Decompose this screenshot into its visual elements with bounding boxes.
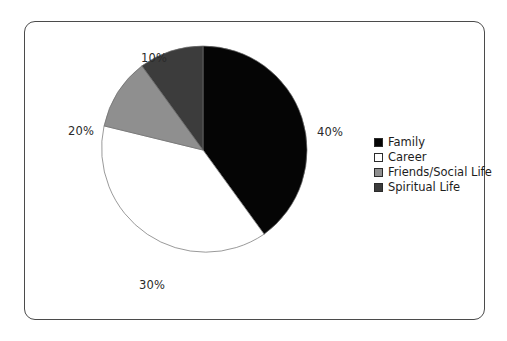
- chart-frame: 10% 20% 40% 30% Family Career Friends/So…: [24, 21, 485, 320]
- legend-swatch-friends-social-life-icon: [374, 168, 383, 177]
- chart-legend: Family Career Friends/Social Life Spirit…: [374, 135, 502, 195]
- legend-label-spiritual-life: Spiritual Life: [388, 181, 460, 194]
- pie-label-spiritual-life: 10%: [141, 51, 167, 65]
- legend-swatch-career-icon: [374, 153, 383, 162]
- legend-item-family[interactable]: Family: [374, 135, 502, 150]
- legend-item-friends-social-life[interactable]: Friends/Social Life: [374, 165, 502, 180]
- legend-label-career: Career: [388, 151, 426, 164]
- pie-label-family: 40%: [317, 125, 343, 139]
- pie-chart-plot-area: 10% 20% 40% 30%: [25, 22, 385, 321]
- pie-chart[interactable]: [97, 44, 309, 256]
- pie-label-career: 30%: [139, 278, 165, 292]
- legend-item-career[interactable]: Career: [374, 150, 502, 165]
- legend-item-spiritual-life[interactable]: Spiritual Life: [374, 180, 502, 195]
- pie-label-friends-social-life: 20%: [68, 124, 94, 138]
- legend-label-family: Family: [388, 136, 425, 149]
- legend-swatch-family-icon: [374, 138, 383, 147]
- legend-swatch-spiritual-life-icon: [374, 183, 383, 192]
- legend-label-friends-social-life: Friends/Social Life: [388, 166, 492, 179]
